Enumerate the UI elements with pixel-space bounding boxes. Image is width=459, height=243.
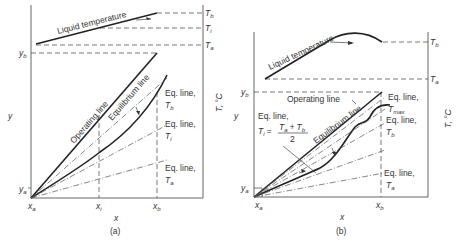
panel-a-eq-ta-label: Eq. line, [165,163,196,173]
panel-b-liquid-temperature-label: Liquid temperature [267,33,336,72]
arrowhead-icon [348,41,354,45]
panel-a-x-axis-label: x [113,213,119,223]
panel-a-eq-line-ti [31,126,165,198]
panel-b-eq-ta-label: Eq. line, [384,168,415,178]
panel-a-operating-line-label: Operating line [68,99,110,146]
panel-b-eq-tb-t: Tb [386,127,395,138]
panel-b-eq-tmax-t: Tmax [388,104,406,115]
panel-b: Liquid temperature Operating line Equili… [233,32,453,236]
panel-a-tick-ta: Ta [205,40,214,51]
panel-b-tick-ta: Ta [430,74,439,85]
panel-a-temp-axis-label: T, °C [214,92,224,112]
panel-a-xa-tick: xa [27,201,36,212]
panel-a-eq-ta-t: Ta [165,175,174,186]
panel-b-temp-axis-label: T, °C [443,108,453,128]
panel-b-y-axis-label: y [233,111,239,121]
panel-b-x-axis-label: x [339,212,345,222]
arrowhead-icon [136,111,140,115]
panel-a-tick-ti: Ti [205,23,212,34]
panel-a-eq-ti-t: Ti [165,131,172,142]
panel-b-eq-ta-t: Ta [386,180,395,191]
panel-b-xb-tick: xb [375,200,384,211]
absorption-diagram: Liquid temperature Operating line Equili… [0,0,459,243]
panel-a-xb-tick: xb [152,201,161,212]
panel-b-eq-tmax-label: Eq. line, [388,92,419,102]
panel-b-eq-line-ti [254,150,385,197]
panel-b-eq-ti-numerator: Ta+Tb [279,122,306,133]
panel-a: Liquid temperature Operating line Equili… [7,5,224,236]
panel-a-yb-tick: yb [18,48,27,59]
panel-b-ya-tick: ya [240,183,249,194]
panel-b-tick-tb: Tb [430,37,439,48]
panel-b-yb-tick: yb [240,87,249,98]
panel-b-eq-line-tmax [254,109,385,197]
panel-b-eq-ti-denominator: 2 [290,134,295,144]
panel-a-caption: (a) [110,226,121,236]
panel-a-equilibrium-line-label: Equilibrium line [106,72,152,122]
panel-a-y-axis-label: y [7,111,13,121]
panel-a-operating-line [31,53,157,198]
panel-a-xi-tick: xi [95,201,102,212]
panel-b-caption: (b) [336,226,347,236]
panel-a-tick-tb: Tb [205,8,214,19]
panel-a-eq-ti-label: Eq. line, [165,119,196,129]
panel-a-ya-tick: ya [18,184,27,195]
panel-b-eq-line-ta [254,173,384,197]
panel-b-operating-line-label: Operating line [287,94,340,104]
panel-a-eq-tb-t: Tb [165,100,174,111]
panel-b-equilibrium-line-label: Equilibrium line [311,103,363,146]
panel-b-eq-tb-label: Eq. line, [386,115,417,125]
panel-a-eq-tb-label: Eq. line, [165,88,196,98]
panel-b-xa-tick: xa [254,200,263,211]
panel-b-eq-ti-lhs: Ti= [258,126,272,137]
panel-b-eq-ti-label: Eq. line, [258,111,289,121]
